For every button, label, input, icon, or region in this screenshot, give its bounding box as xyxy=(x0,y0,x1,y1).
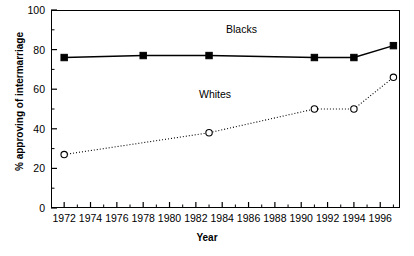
chart-figure: % approving of intermarriage 02040608010… xyxy=(0,0,414,256)
y-tick-label: 80 xyxy=(3,45,45,55)
y-tick-label: 0 xyxy=(3,203,45,213)
plot-area xyxy=(51,10,400,208)
y-tick-label: 20 xyxy=(3,163,45,173)
y-tick-label: 40 xyxy=(3,124,45,134)
x-axis-title: Year xyxy=(0,232,414,243)
x-tick-label: 1996 xyxy=(359,213,401,223)
y-tick-label: 100 xyxy=(3,5,45,15)
y-tick-label: 60 xyxy=(3,84,45,94)
series-label-blacks: Blacks xyxy=(226,23,257,35)
series-label-whites: Whites xyxy=(199,88,231,100)
